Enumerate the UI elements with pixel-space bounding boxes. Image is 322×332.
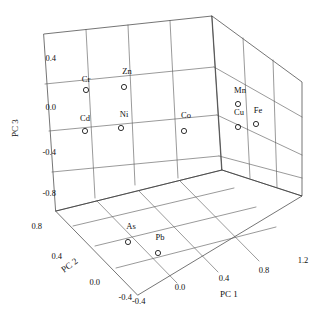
point-marker-zn	[121, 84, 126, 89]
z-tick-label: -0.8	[43, 188, 56, 198]
point-label-ni: Ni	[120, 109, 129, 119]
x-axis-title: PC 1	[220, 289, 238, 299]
point-label-pb: Pb	[156, 232, 165, 242]
y-tick-label: -0.4	[119, 292, 133, 302]
data-point-ni[interactable]: Ni	[118, 109, 128, 131]
x-tick-label: 0.8	[259, 265, 270, 275]
point-label-co: Co	[181, 110, 191, 120]
point-label-as: As	[126, 221, 135, 231]
y-axis-title: PC 2	[59, 256, 79, 275]
y-tick-label: 0.4	[51, 251, 62, 261]
y-tick-label: 0.8	[31, 221, 42, 231]
point-label-fe: Fe	[254, 105, 263, 115]
point-marker-cd	[82, 128, 87, 133]
point-marker-pb	[155, 250, 160, 255]
point-marker-ni	[118, 125, 123, 130]
data-point-as[interactable]: As	[125, 221, 135, 245]
data-point-co[interactable]: Co	[181, 110, 191, 134]
point-marker-mn	[235, 101, 240, 106]
x-tick-label: 0.4	[219, 273, 230, 283]
z-tick-label: -0.4	[43, 147, 57, 157]
data-point-cu[interactable]: Cu	[234, 107, 245, 130]
data-point-mn[interactable]: Mn	[234, 85, 247, 107]
pca-3d-scatter-plot: 0.4 0.0 -0.4 -0.8 0.8 0.4 0.0 -0.4 -0.4 …	[0, 0, 322, 332]
point-label-cr: Cr	[82, 74, 91, 84]
z-tick-label: 0.4	[45, 53, 56, 63]
point-marker-cr	[83, 87, 88, 92]
back-left-wall	[44, 16, 222, 211]
x-tick-label: -0.4	[132, 296, 146, 306]
point-label-mn: Mn	[234, 85, 247, 95]
data-point-pb[interactable]: Pb	[155, 232, 164, 256]
y-tick-label: 0.0	[89, 277, 100, 287]
z-axis-title: PC 3	[10, 119, 20, 137]
y-axis-ticks: 0.8 0.4 0.0 -0.4	[31, 221, 132, 302]
point-marker-as	[125, 239, 130, 244]
x-tick-label: 0.0	[175, 282, 186, 292]
point-marker-co	[181, 128, 186, 133]
z-tick-label: 0.0	[45, 102, 56, 112]
data-point-cd[interactable]: Cd	[80, 113, 91, 134]
point-label-cu: Cu	[234, 107, 245, 117]
x-tick-label: 1.2	[298, 255, 309, 265]
point-label-cd: Cd	[80, 113, 91, 123]
data-point-fe[interactable]: Fe	[253, 105, 262, 127]
point-marker-fe	[253, 121, 258, 126]
chart-canvas: 0.4 0.0 -0.4 -0.8 0.8 0.4 0.0 -0.4 -0.4 …	[0, 0, 322, 332]
z-axis-ticks: 0.4 0.0 -0.4 -0.8	[43, 53, 57, 198]
point-label-zn: Zn	[122, 66, 132, 76]
